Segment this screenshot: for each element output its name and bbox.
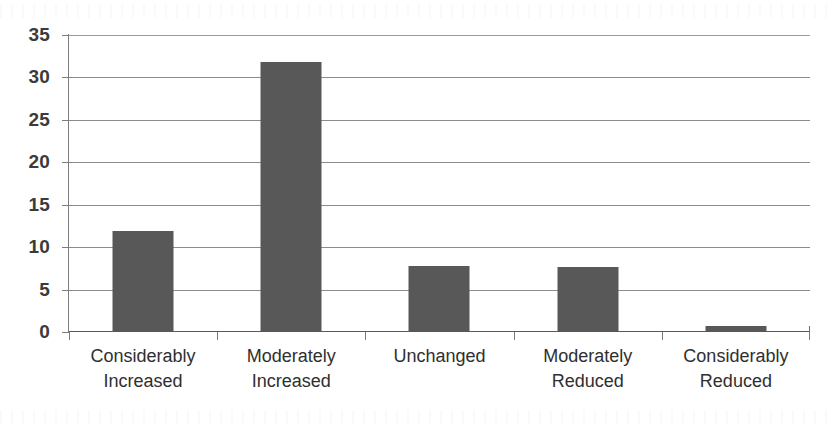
bar-moderately-reduced[interactable] bbox=[557, 267, 618, 332]
y-tick-mark-25 bbox=[62, 120, 69, 121]
x-label-line1: Moderately bbox=[247, 346, 336, 366]
x-label-line1: Unchanged bbox=[393, 346, 485, 366]
y-tick-mark-30 bbox=[62, 77, 69, 78]
y-tick-mark-0 bbox=[62, 332, 69, 333]
bar-chart: 35 30 25 20 15 10 5 0 bbox=[0, 0, 833, 431]
x-label-moderately-increased: Moderately Increased bbox=[217, 344, 365, 394]
y-tick-label-35: 35 bbox=[28, 24, 50, 46]
y-tick-mark-35 bbox=[62, 35, 69, 36]
bar-slot-moderately-increased bbox=[217, 35, 365, 332]
y-tick-label-25: 25 bbox=[28, 109, 50, 131]
x-tick-mark-4 bbox=[662, 332, 663, 340]
y-axis-tick-labels: 35 30 25 20 15 10 5 0 bbox=[0, 0, 62, 431]
x-tick-mark-1 bbox=[217, 332, 218, 340]
bars-layer bbox=[69, 35, 810, 332]
x-label-line2: Increased bbox=[217, 369, 365, 394]
y-tick-label-30: 30 bbox=[28, 66, 50, 88]
x-label-moderately-reduced: Moderately Reduced bbox=[514, 344, 662, 394]
x-tick-mark-5 bbox=[809, 332, 810, 340]
bar-slot-considerably-increased bbox=[69, 35, 217, 332]
x-tick-mark-0 bbox=[69, 332, 70, 340]
scan-artifact-band-bottom bbox=[0, 410, 833, 424]
y-tick-mark-15 bbox=[62, 205, 69, 206]
x-label-unchanged: Unchanged bbox=[365, 344, 513, 369]
y-tick-mark-20 bbox=[62, 162, 69, 163]
x-label-line2: Increased bbox=[69, 369, 217, 394]
y-tick-mark-10 bbox=[62, 247, 69, 248]
x-label-considerably-reduced: Considerably Reduced bbox=[662, 344, 810, 394]
bar-unchanged[interactable] bbox=[409, 266, 470, 332]
x-label-line1: Considerably bbox=[683, 346, 788, 366]
bar-considerably-increased[interactable] bbox=[113, 231, 174, 332]
y-tick-mark-5 bbox=[62, 290, 69, 291]
x-axis-labels: Considerably Increased Moderately Increa… bbox=[69, 344, 810, 404]
y-tick-label-5: 5 bbox=[39, 279, 50, 301]
y-tick-label-10: 10 bbox=[28, 236, 50, 258]
x-label-line2: Reduced bbox=[662, 369, 810, 394]
bar-moderately-increased[interactable] bbox=[261, 62, 322, 332]
x-tick-mark-2 bbox=[365, 332, 366, 340]
bar-slot-moderately-reduced bbox=[514, 35, 662, 332]
x-tick-mark-3 bbox=[514, 332, 515, 340]
x-label-line1: Considerably bbox=[91, 346, 196, 366]
y-tick-label-20: 20 bbox=[28, 151, 50, 173]
x-label-line2: Reduced bbox=[514, 369, 662, 394]
x-axis-tick-marks bbox=[69, 332, 810, 340]
y-tick-label-0: 0 bbox=[39, 321, 50, 343]
x-label-line1: Moderately bbox=[543, 346, 632, 366]
y-tick-label-15: 15 bbox=[28, 194, 50, 216]
scan-artifact-band-top bbox=[0, 4, 833, 18]
bar-slot-considerably-reduced bbox=[662, 35, 810, 332]
x-label-considerably-increased: Considerably Increased bbox=[69, 344, 217, 394]
bar-slot-unchanged bbox=[365, 35, 513, 332]
